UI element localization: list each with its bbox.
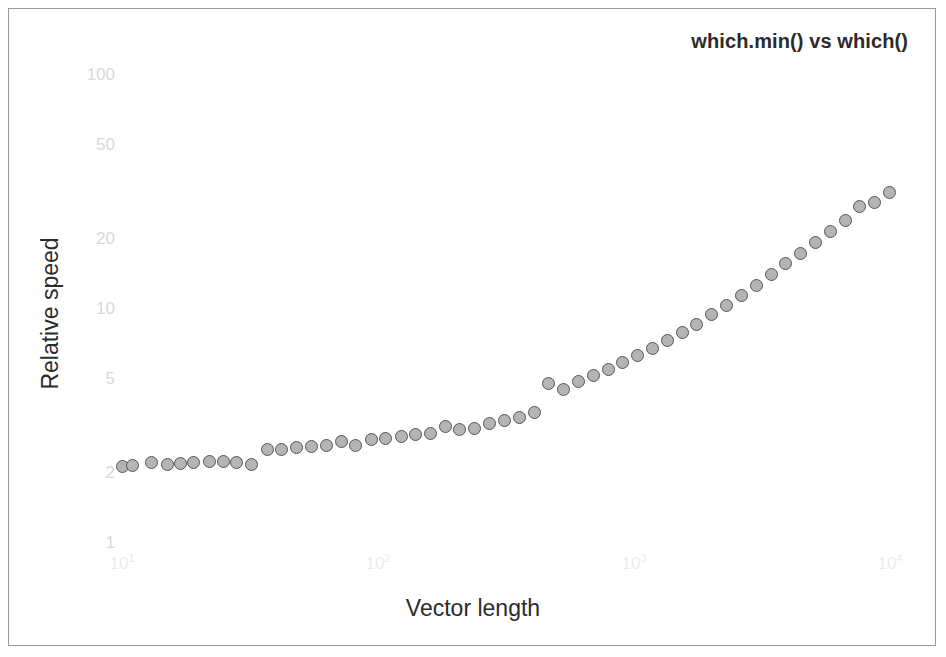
x-axis-tick-label: 104 [877,552,902,574]
data-point [126,459,139,472]
data-point [365,433,378,446]
data-point [616,356,629,369]
data-point [513,411,526,424]
data-point [542,377,555,390]
data-point [439,420,452,433]
y-axis-tick-label: 50 [55,135,115,155]
y-axis-tick-label: 20 [55,229,115,249]
x-axis-tick-label: 102 [365,552,390,574]
data-point [587,369,600,382]
data-point [305,440,318,453]
chart-figure: which.min() vs which() Relative speed Ve… [0,0,946,657]
y-axis-tick-label: 1 [55,533,115,553]
x-tick-exponent: 2 [384,552,390,564]
data-point [174,457,187,470]
data-point [690,318,703,331]
x-tick-base: 10 [621,554,640,573]
data-point [735,289,748,302]
data-point [468,422,481,435]
data-point [379,432,392,445]
data-point [602,363,615,376]
data-point [498,414,511,427]
data-point [290,441,303,454]
data-point [261,443,274,456]
y-axis-tick-label: 2 [55,463,115,483]
data-point [705,308,718,321]
y-axis-tick-label: 100 [55,65,115,85]
data-point [187,456,200,469]
data-point [853,200,866,213]
data-point [161,458,174,471]
data-point [245,458,258,471]
data-point [765,268,778,281]
data-point [453,423,466,436]
data-point [720,299,733,312]
data-point [676,326,689,339]
x-tick-exponent: 1 [128,552,134,564]
data-point [883,186,896,199]
data-point [203,455,216,468]
data-point [320,439,333,452]
data-point [349,439,362,452]
x-axis-tick-label: 101 [109,552,134,574]
data-point [528,406,541,419]
data-point [424,427,437,440]
plot-area: 100502010521101102103104 [0,0,946,657]
data-point [217,455,230,468]
data-point [824,225,837,238]
data-point [631,349,644,362]
data-point [750,279,763,292]
data-point [557,383,570,396]
data-point [794,247,807,260]
data-point [395,430,408,443]
data-point [483,417,496,430]
x-tick-exponent: 4 [896,552,902,564]
x-tick-base: 10 [109,554,128,573]
data-point [275,443,288,456]
data-point [646,342,659,355]
x-tick-base: 10 [877,554,896,573]
data-point [661,334,674,347]
data-point [809,236,822,249]
x-tick-base: 10 [365,554,384,573]
x-tick-exponent: 3 [640,552,646,564]
y-axis-tick-label: 5 [55,369,115,389]
data-point [868,196,881,209]
data-point [335,435,348,448]
data-point [572,375,585,388]
data-point [409,428,422,441]
x-axis-tick-label: 103 [621,552,646,574]
data-point [779,257,792,270]
y-axis-tick-label: 10 [55,299,115,319]
data-point [230,456,243,469]
data-point [145,456,158,469]
data-point [839,214,852,227]
